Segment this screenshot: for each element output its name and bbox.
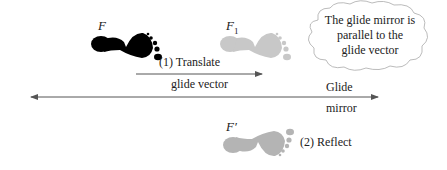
- label-f1: F1: [226, 18, 238, 36]
- label-translate: (1) Translate: [159, 55, 220, 70]
- callout-line-2: parallel to the: [316, 28, 424, 43]
- label-glide: Glide: [326, 80, 353, 95]
- label-f-prime: F′: [226, 119, 237, 135]
- label-f1-main: F: [226, 18, 234, 33]
- callout-text: The glide mirror is parallel to the glid…: [316, 13, 424, 58]
- footprint-original: [91, 33, 162, 61]
- label-reflect: (2) Reflect: [300, 135, 352, 150]
- label-mirror: mirror: [326, 101, 357, 116]
- callout-line-1: The glide mirror is: [316, 13, 424, 28]
- label-f: F: [98, 18, 106, 34]
- footprint-translated: [220, 33, 291, 61]
- callout-line-3: glide vector: [316, 43, 424, 58]
- label-f1-sub: 1: [234, 26, 239, 36]
- label-glide-vector: glide vector: [171, 77, 228, 92]
